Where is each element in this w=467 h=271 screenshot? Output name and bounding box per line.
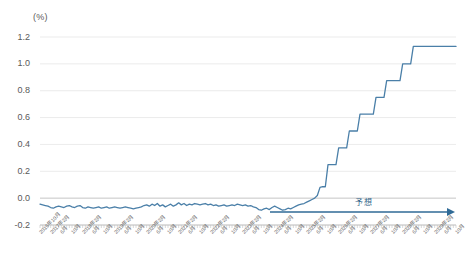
interest-rate-chart: (%) 1.21.00.80.60.40.20.0-0.2 2016年10月20… <box>0 0 467 271</box>
y-axis-tick-label: 0.2 <box>4 166 30 176</box>
y-axis-tick-label: -0.2 <box>4 220 30 230</box>
gridlines <box>40 37 456 225</box>
y-axis-tick-label: 0.6 <box>4 112 30 122</box>
forecast-annotation-label: 予想 <box>355 196 373 207</box>
y-axis-tick-label: 1.2 <box>4 32 30 42</box>
forecast-arrow <box>270 208 455 216</box>
y-axis-tick-label: 0.8 <box>4 85 30 95</box>
y-axis-tick-label: 1.0 <box>4 58 30 68</box>
y-axis-tick-label: 0.4 <box>4 139 30 149</box>
data-series-line <box>40 46 456 210</box>
y-axis-tick-label: 0.0 <box>4 193 30 203</box>
